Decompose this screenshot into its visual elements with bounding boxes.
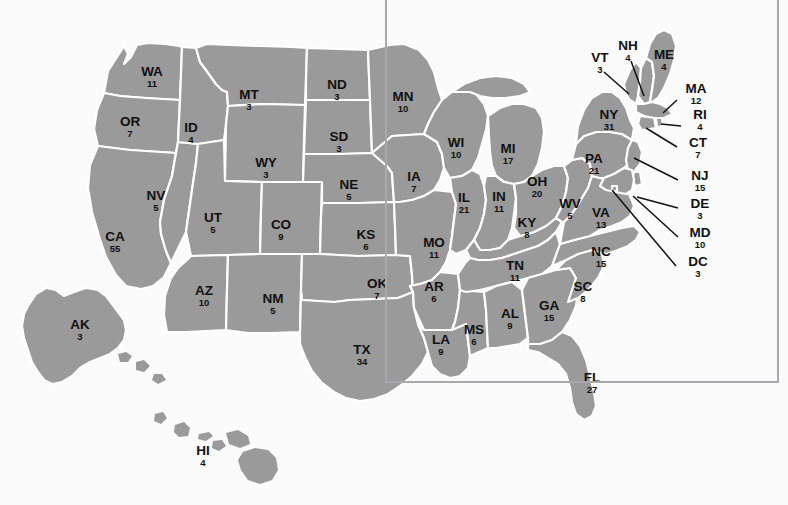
state-abbr-TX: TX [353, 342, 370, 357]
state-abbr-OH: OH [527, 174, 547, 189]
state-abbr-TN: TN [506, 258, 524, 273]
state-votes-KS: 6 [363, 241, 368, 252]
state-votes-CO: 9 [278, 231, 283, 242]
state-label-RI[interactable]: RI4 [693, 107, 707, 132]
state-shape-NJ[interactable] [626, 140, 642, 172]
state-votes-MT: 3 [246, 101, 251, 112]
state-votes-IN: 11 [494, 203, 505, 214]
state-label-DE[interactable]: DE3 [691, 196, 710, 221]
state-votes-DE: 3 [697, 210, 702, 221]
state-votes-MA: 12 [691, 95, 702, 106]
state-abbr-NV: NV [147, 188, 166, 203]
state-label-IL[interactable]: IL21 [458, 190, 470, 215]
state-votes-IL: 21 [459, 204, 470, 215]
state-abbr-IN: IN [492, 189, 506, 204]
state-abbr-MS: MS [464, 322, 484, 337]
state-votes-TN: 11 [510, 272, 521, 283]
state-votes-NY: 31 [604, 121, 615, 132]
state-votes-GA: 15 [544, 312, 555, 323]
state-abbr-LA: LA [432, 332, 450, 347]
state-label-FL[interactable]: FL27 [584, 370, 601, 395]
state-votes-OR: 7 [127, 128, 132, 139]
state-shape-HI[interactable] [154, 412, 278, 484]
state-abbr-WA: WA [141, 64, 163, 79]
state-label-HI[interactable]: HI4 [196, 443, 210, 468]
state-label-MD[interactable]: MD10 [690, 225, 711, 250]
state-abbr-PA: PA [585, 151, 603, 166]
state-abbr-VA: VA [592, 205, 610, 220]
leader-line-DE [637, 197, 678, 208]
state-votes-SD: 3 [336, 143, 341, 154]
state-votes-MS: 6 [471, 336, 476, 347]
state-abbr-WI: WI [448, 135, 465, 150]
state-abbr-SD: SD [330, 129, 349, 144]
state-shape-OK[interactable] [301, 254, 413, 302]
state-votes-WI: 10 [451, 149, 462, 160]
state-abbr-IL: IL [458, 190, 470, 205]
state-votes-MI: 17 [503, 155, 514, 166]
state-label-IN[interactable]: IN11 [492, 189, 506, 214]
state-votes-UT: 5 [210, 224, 216, 235]
state-votes-NV: 5 [153, 202, 159, 213]
state-abbr-MA: MA [686, 81, 707, 96]
state-votes-TX: 34 [357, 356, 368, 367]
state-label-DC[interactable]: DC3 [688, 254, 708, 279]
state-votes-NE: 5 [346, 191, 352, 202]
state-abbr-KS: KS [357, 227, 376, 242]
state-abbr-MO: MO [423, 235, 445, 250]
state-votes-DC: 3 [695, 268, 700, 279]
state-votes-IA: 7 [411, 183, 416, 194]
state-abbr-AL: AL [501, 306, 519, 321]
state-abbr-MI: MI [501, 141, 516, 156]
state-votes-AL: 9 [507, 320, 512, 331]
state-abbr-HI: HI [196, 443, 210, 458]
state-votes-WA: 11 [147, 78, 158, 89]
state-abbr-ME: ME [654, 47, 674, 62]
state-label-NH[interactable]: NH4 [618, 38, 638, 63]
state-abbr-NM: NM [263, 291, 284, 306]
state-votes-RI: 4 [697, 121, 703, 132]
state-label-MA[interactable]: MA12 [686, 81, 707, 106]
state-votes-CA: 55 [110, 243, 121, 254]
electoral-map-page: WA11OR7CA55NV5ID4MT3WY3UT5AZ10CO9NM5ND3S… [0, 0, 788, 505]
state-abbr-NH: NH [618, 38, 638, 53]
state-votes-AZ: 10 [199, 297, 210, 308]
state-label-NJ[interactable]: NJ15 [691, 168, 708, 193]
state-shape-AK-islands [118, 352, 166, 384]
state-label-VT[interactable]: VT3 [591, 50, 609, 75]
state-votes-ME: 4 [661, 61, 667, 72]
state-abbr-OR: OR [120, 114, 141, 129]
us-electoral-map[interactable]: WA11OR7CA55NV5ID4MT3WY3UT5AZ10CO9NM5ND3S… [0, 0, 788, 505]
state-abbr-WV: WV [559, 196, 581, 211]
state-abbr-ID: ID [184, 120, 198, 135]
state-shape-AK[interactable] [22, 288, 126, 384]
state-votes-KY: 8 [524, 229, 529, 240]
state-abbr-MD: MD [690, 225, 711, 240]
state-label-CT[interactable]: CT7 [689, 135, 708, 160]
state-votes-VT: 3 [597, 64, 602, 75]
state-votes-MN: 10 [398, 103, 409, 114]
state-abbr-NE: NE [340, 177, 359, 192]
state-votes-NJ: 15 [695, 182, 706, 193]
state-abbr-CA: CA [105, 229, 125, 244]
state-abbr-KY: KY [518, 215, 537, 230]
state-label-MI[interactable]: MI17 [501, 141, 516, 166]
state-shape-RI[interactable] [656, 118, 663, 127]
state-abbr-MN: MN [393, 89, 414, 104]
state-abbr-AK: AK [70, 317, 90, 332]
state-abbr-NY: NY [600, 107, 619, 122]
state-votes-WV: 5 [567, 210, 573, 221]
state-abbr-NJ: NJ [691, 168, 708, 183]
state-abbr-MT: MT [239, 87, 259, 102]
state-votes-LA: 9 [438, 346, 443, 357]
state-votes-VA: 13 [596, 219, 607, 230]
state-votes-ID: 4 [188, 134, 194, 145]
state-abbr-IA: IA [407, 169, 421, 184]
state-abbr-AZ: AZ [195, 283, 213, 298]
state-votes-AR: 6 [431, 293, 436, 304]
state-abbr-GA: GA [539, 298, 560, 313]
state-votes-CT: 7 [695, 149, 700, 160]
state-votes-PA: 21 [589, 165, 600, 176]
state-votes-WY: 3 [263, 169, 268, 180]
state-abbr-CO: CO [271, 217, 291, 232]
